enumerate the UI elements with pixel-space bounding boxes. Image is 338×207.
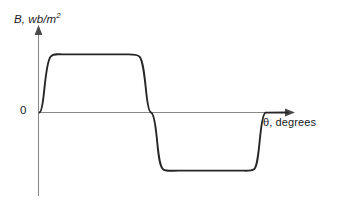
y-axis-arrowhead <box>35 25 43 35</box>
y-axis-label-text: B, wb/m <box>14 13 56 25</box>
x-axis-label: θ, degrees <box>263 116 316 128</box>
origin-label: 0 <box>20 104 27 116</box>
figure-container: B, wb/m2 θ, degrees 0 <box>0 0 338 207</box>
waveform-plot <box>0 0 338 207</box>
y-axis-label: B, wb/m2 <box>14 11 61 25</box>
y-axis-label-exponent: 2 <box>56 11 61 20</box>
